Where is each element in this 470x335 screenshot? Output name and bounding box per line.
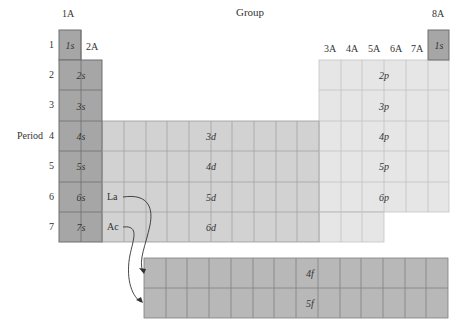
orbital-label-5p: 5p: [379, 161, 389, 172]
orbital-label-4f: 4f: [306, 268, 314, 279]
orbital-label-6p: 6p: [379, 192, 389, 203]
orbital-label-4s: 4s: [77, 131, 86, 142]
orbital-label-6d: 6d: [206, 222, 216, 233]
element-label-ac: Ac: [107, 221, 119, 232]
orbital-label-3s: 3s: [77, 101, 86, 112]
orbital-label-he-1s: 1s: [435, 40, 444, 51]
orbital-label-2s: 2s: [77, 70, 86, 81]
orbital-label-7s: 7s: [77, 222, 86, 233]
orbital-label-3d: 3d: [206, 131, 216, 142]
orbital-label-5f: 5f: [306, 298, 314, 309]
orbital-label-1s: 1s: [66, 40, 75, 51]
orbital-label-5d: 5d: [206, 192, 216, 203]
orbital-label-2p: 2p: [379, 70, 389, 81]
element-label-la: La: [107, 191, 118, 202]
orbital-label-3p: 3p: [379, 101, 389, 112]
orbital-label-4p: 4p: [379, 131, 389, 142]
orbital-label-6s: 6s: [77, 192, 86, 203]
orbital-label-5s: 5s: [77, 161, 86, 172]
orbital-label-4d: 4d: [206, 161, 216, 172]
